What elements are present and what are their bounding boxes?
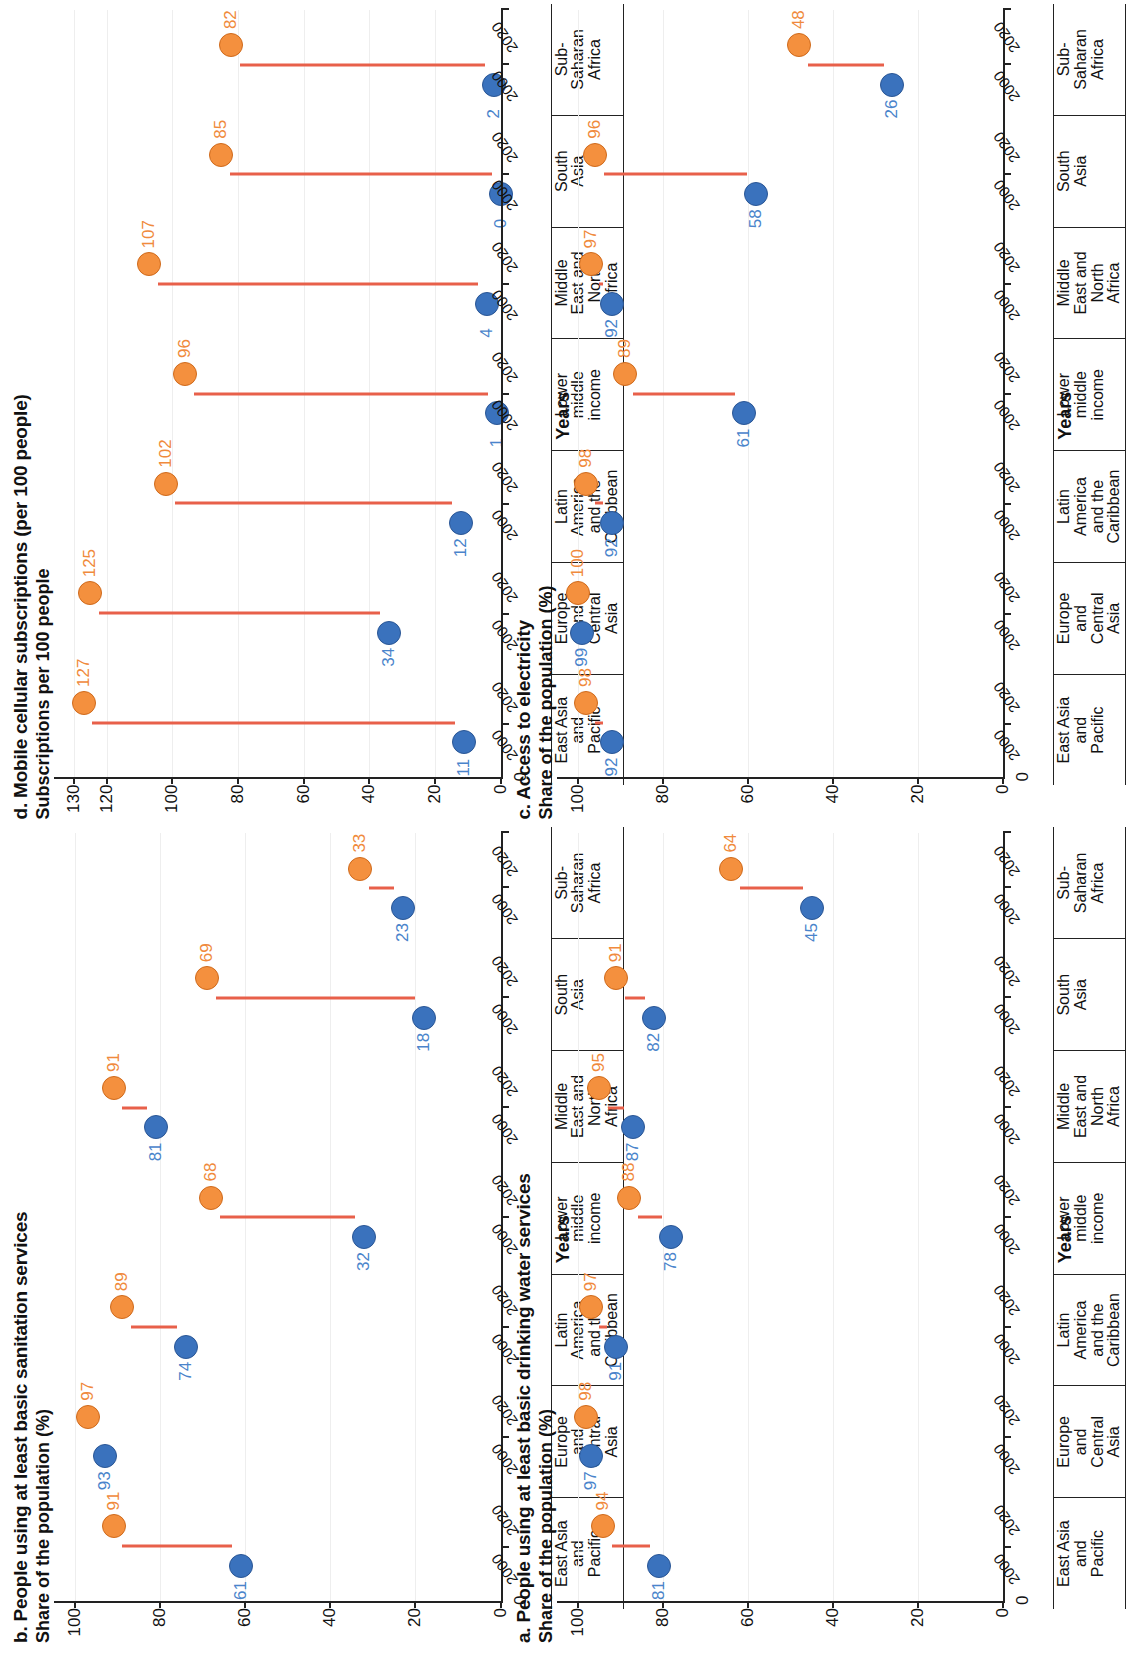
connector-line: [240, 63, 485, 66]
category-label-line: North: [1090, 229, 1107, 338]
data-point-2020: [604, 966, 628, 990]
data-point-2020: [613, 362, 637, 386]
category-group: 4107: [54, 229, 501, 339]
x-tick: [501, 283, 509, 285]
category-label-line: Africa: [1106, 229, 1123, 338]
connector-line: [220, 1216, 355, 1219]
category-label: LatinAmericaand theCaribbean: [1054, 450, 1125, 562]
category-group: 282: [54, 10, 501, 120]
connector-line: [99, 612, 380, 615]
category-label: Lowermiddleincome: [1054, 1162, 1125, 1274]
category-label: MiddleEast andNorthAfrica: [1054, 227, 1125, 339]
connector-line: [230, 173, 491, 176]
category-group: 6189: [557, 339, 1004, 449]
category-label: East AsiaandPacific: [1054, 674, 1125, 786]
category-label-line: Pacific: [1090, 1499, 1107, 1608]
y-tick-label: 40: [823, 785, 843, 804]
axis-origin-label: 0: [1013, 1596, 1033, 1605]
y-tick-label: 20: [425, 785, 445, 804]
y-tick-label: 80: [653, 1608, 673, 1627]
data-label: 97: [581, 1272, 601, 1291]
data-label: 74: [176, 1362, 196, 1381]
connector-line: [175, 502, 453, 505]
data-point-2000: [377, 621, 401, 645]
data-label: 58: [746, 209, 766, 228]
panel-a: a. People using at least basic drinking …: [509, 828, 1012, 1652]
connector-line: [194, 392, 488, 395]
y-tick-label: 20: [908, 785, 928, 804]
data-label: 64: [721, 834, 741, 853]
x-tick: [501, 1216, 509, 1218]
data-point-2020: [102, 1076, 126, 1100]
x-tick: [1003, 723, 1011, 725]
y-tick-label: 100: [162, 785, 182, 813]
panel-d-title: d. Mobile cellular subscriptions (per 10…: [10, 10, 32, 820]
category-label-line: Central: [1090, 564, 1107, 673]
category-label: Sub-SaharanAfrica: [1054, 4, 1125, 115]
y-tick-label: 60: [738, 1608, 758, 1627]
x-tick: [501, 393, 509, 395]
y-tick-label: 20: [908, 1608, 928, 1627]
data-point-2000: [600, 292, 624, 316]
data-label: 34: [379, 648, 399, 667]
x-tick: [501, 63, 509, 65]
data-point-2000: [659, 1225, 683, 1249]
category-label-line: America: [1073, 1276, 1090, 1385]
y-tick-label: 40: [320, 1608, 340, 1627]
category-label: SouthAsia: [1054, 115, 1125, 227]
data-point-2000: [391, 896, 415, 920]
data-point-2020: [72, 691, 96, 715]
data-point-2020: [195, 966, 219, 990]
connector-line: [740, 887, 803, 890]
data-point-2020: [583, 143, 607, 167]
x-tick: [1003, 1436, 1011, 1438]
category-label-line: Latin: [1056, 1276, 1073, 1385]
data-label: 61: [231, 1581, 251, 1600]
data-point-2020: [574, 472, 598, 496]
y-tick-label: 60: [738, 785, 758, 804]
category-label-line: Latin: [1056, 452, 1073, 561]
y-tick: [832, 778, 834, 785]
data-label: 92: [602, 319, 622, 338]
data-point-2000: [570, 621, 594, 645]
category-group: 9197: [557, 1272, 1004, 1382]
category-group: 12102: [54, 449, 501, 559]
panel-c-y-axis-title: Share of the population (%): [536, 10, 557, 820]
data-point-2000: [604, 1335, 628, 1359]
category-group: 5896: [557, 120, 1004, 230]
data-point-2020: [719, 857, 743, 881]
category-group: 34125: [54, 558, 501, 668]
y-tick-label: 0: [993, 1608, 1013, 1617]
data-label: 11: [454, 759, 474, 777]
x-tick: [1003, 173, 1011, 175]
y-tick: [244, 1601, 246, 1608]
category-label-line: Europe: [1056, 564, 1073, 673]
data-label: 92: [602, 538, 622, 557]
connector-line: [604, 173, 748, 176]
data-point-2000: [144, 1115, 168, 1139]
data-point-2000: [600, 730, 624, 754]
y-tick: [237, 778, 239, 785]
category-group: 9297: [557, 229, 1004, 339]
data-label: 99: [572, 648, 592, 667]
connector-line: [158, 283, 478, 286]
y-tick: [159, 1601, 161, 1608]
x-tick: [1003, 1326, 1011, 1328]
category-label: LatinAmericaand theCaribbean: [1054, 1274, 1125, 1386]
category-group: 196: [54, 339, 501, 449]
data-label: 18: [414, 1033, 434, 1052]
data-label: 4: [477, 328, 497, 337]
panel-b-y-axis-title: Share of the population (%): [33, 834, 54, 1644]
category-label-line: and: [1073, 564, 1090, 673]
data-point-2020: [587, 1076, 611, 1100]
y-tick-label: 40: [823, 1608, 843, 1627]
x-tick: [1003, 1106, 1011, 1108]
panel-d-y-axis-title: Subscriptions per 100 people: [33, 10, 54, 820]
x-tick: [1003, 63, 1011, 65]
category-label-line: Caribbean: [1106, 1276, 1123, 1385]
data-point-2020: [137, 252, 161, 276]
category-label: East AsiaandPacific: [1054, 1497, 1125, 1609]
connector-line: [369, 887, 394, 890]
x-tick: [1003, 1216, 1011, 1218]
data-point-2020: [110, 1295, 134, 1319]
